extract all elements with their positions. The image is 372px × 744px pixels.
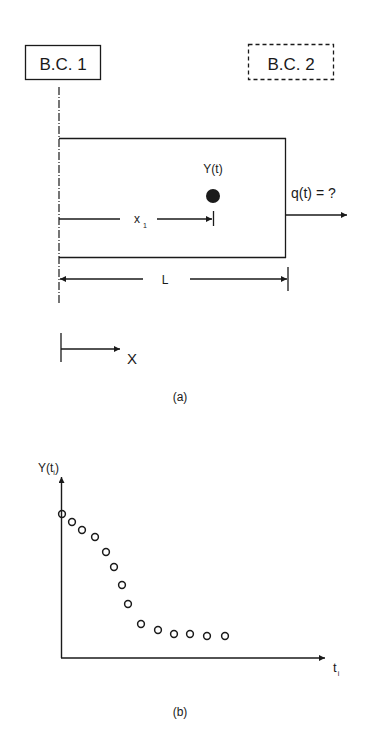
data-point	[171, 631, 178, 638]
data-point	[204, 633, 211, 640]
data-points	[59, 511, 229, 640]
bc1-label: B.C. 1	[39, 55, 86, 74]
data-point	[155, 627, 162, 634]
svg-text:x1: x1	[134, 212, 147, 229]
data-point	[79, 527, 86, 534]
svg-text:ti: ti	[333, 660, 340, 677]
data-point	[103, 549, 110, 556]
svg-text:Y(ti): Y(ti)	[38, 461, 59, 476]
sensor-label: Y(t)	[203, 162, 222, 176]
sensor-dot	[206, 189, 220, 203]
data-point	[92, 534, 99, 541]
caption-a: (a)	[173, 390, 188, 404]
y-axis-label: Y(t	[38, 461, 54, 475]
x-axis-subscript: i	[338, 670, 340, 677]
data-point	[125, 601, 132, 608]
flux-label: q(t) = ?	[291, 185, 336, 201]
x-axis-label: t	[333, 660, 337, 675]
data-point	[187, 631, 194, 638]
bc2-box: B.C. 2	[249, 45, 334, 80]
panel-b: Y(ti) ti (b)	[38, 461, 340, 719]
x1-subscript: 1	[143, 222, 147, 229]
domain-rectangle	[59, 138, 286, 258]
diagram-canvas: B.C. 1 B.C. 2 Y(t) q(t) = ? x1 L	[0, 0, 372, 744]
length-label: L	[162, 273, 169, 287]
x-axis-indicator: X	[61, 333, 137, 367]
data-point	[119, 582, 126, 589]
bc1-box: B.C. 1	[26, 46, 101, 80]
length-dimension: L	[60, 267, 288, 291]
x1-dimension: x1	[59, 211, 214, 229]
caption-b: (b)	[173, 705, 188, 719]
data-point	[222, 633, 229, 640]
bc2-label: B.C. 2	[267, 55, 314, 74]
data-point	[138, 621, 145, 628]
data-point	[111, 564, 118, 571]
x-axis-label: X	[127, 350, 137, 367]
x1-label: x	[134, 212, 140, 226]
panel-a: B.C. 1 B.C. 2 Y(t) q(t) = ? x1 L	[26, 45, 348, 405]
y-axis-label-close: )	[55, 461, 59, 475]
data-point	[69, 519, 76, 526]
